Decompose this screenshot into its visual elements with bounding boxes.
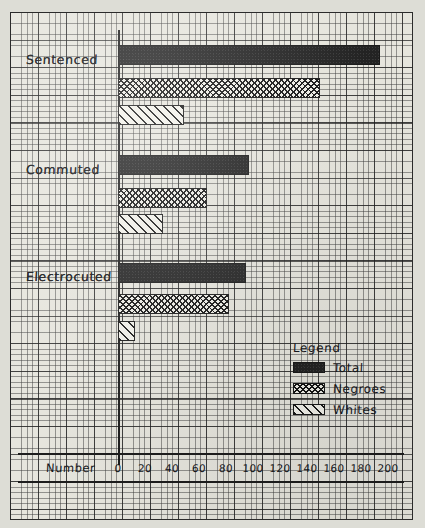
legend-title: Legend — [293, 341, 387, 355]
legend-item-whites: Whites — [293, 401, 386, 418]
legend-swatch-negroes-icon — [293, 383, 325, 394]
x-tick-200: 200 — [377, 462, 399, 474]
legend-swatch-total-icon — [293, 362, 325, 373]
plot-area: Sentenced Commuted Electrocuted Number 0… — [10, 12, 413, 520]
x-tick-100: 100 — [242, 462, 264, 474]
legend-swatch-whites-icon — [293, 404, 325, 415]
legend-item-negroes: Negroes — [293, 380, 386, 397]
x-tick-0: 0 — [114, 462, 122, 474]
x-axis-tick-labels: 0 20 40 60 80 100 120 140 160 180 200 — [10, 12, 413, 520]
chart-page: Sentenced Commuted Electrocuted Number 0… — [0, 0, 425, 528]
legend: Legend Total Negroes Whites — [293, 341, 386, 422]
graph-paper-sheet: Sentenced Commuted Electrocuted Number 0… — [10, 12, 413, 520]
x-tick-160: 160 — [323, 462, 345, 474]
x-tick-120: 120 — [269, 462, 291, 474]
x-tick-60: 60 — [192, 462, 207, 474]
x-tick-40: 40 — [165, 462, 180, 474]
x-tick-20: 20 — [138, 462, 153, 474]
x-tick-140: 140 — [296, 462, 318, 474]
legend-item-total: Total — [293, 359, 386, 376]
legend-label-total: Total — [333, 361, 364, 375]
x-tick-180: 180 — [350, 462, 372, 474]
x-tick-80: 80 — [219, 462, 234, 474]
legend-label-whites: Whites — [333, 403, 378, 417]
legend-label-negroes: Negroes — [333, 382, 387, 396]
